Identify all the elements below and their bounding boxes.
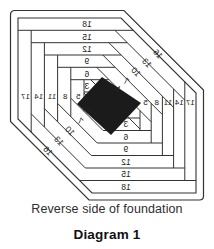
strip-label-bottom: 9 <box>123 144 128 154</box>
strip-label-left: 17 <box>21 92 30 101</box>
strip-label-top: 18 <box>82 19 92 29</box>
strip-label-bottom: 12 <box>121 157 131 167</box>
strip-label-right: 11 <box>163 98 172 107</box>
strip-label-left: 14 <box>34 92 43 101</box>
strip-label-diagonal: 13 <box>52 134 66 148</box>
strip-label-diagonal: 7 <box>75 115 86 126</box>
foundation-diagram: 1815129633691215181714118558111417161310… <box>0 0 214 205</box>
strip-label-top: 6 <box>84 69 89 79</box>
strip-label-diagonal: 10 <box>63 124 77 138</box>
strip-label-top: 12 <box>82 44 92 54</box>
diagram-caption: Reverse side of foundation <box>0 202 214 216</box>
strip-label-left: 11 <box>47 92 56 101</box>
strip-label-right: 14 <box>174 98 183 107</box>
strip-label-bottom: 18 <box>121 182 131 192</box>
diagram-title: Diagram 1 <box>0 227 214 242</box>
strip-label-right: 17 <box>185 98 194 107</box>
strip-label-left: 8 <box>62 92 67 101</box>
strip-label-diagonal: 10 <box>129 65 143 79</box>
strip-label-diagonal: 7 <box>121 75 132 86</box>
strip-label-top: 9 <box>84 56 89 66</box>
strip-label-bottom: 15 <box>121 169 131 179</box>
strip-label-right: 8 <box>154 98 159 107</box>
strip-label-bottom: 3 <box>123 119 128 129</box>
strip-label-bottom: 6 <box>123 132 128 142</box>
strip-label-right: 5 <box>143 98 148 107</box>
strip-label-top: 15 <box>82 32 92 42</box>
strip-label-top: 3 <box>84 81 89 91</box>
strip-label-left: 5 <box>76 92 81 101</box>
diagram-page: 1815129633691215181714118558111417161310… <box>0 0 214 249</box>
strip-label-diagonal: 16 <box>41 144 55 158</box>
